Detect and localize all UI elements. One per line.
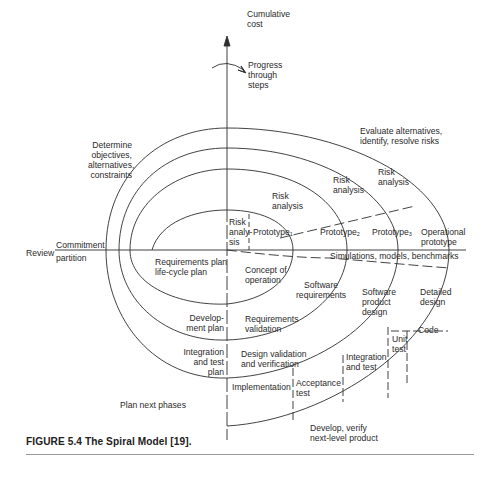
development-plan: Develop- ment plan — [176, 313, 224, 333]
review-label: Review — [26, 248, 54, 258]
operational-prototype: Operational prototype — [421, 227, 465, 247]
determine-objectives-label: Determine objectives, alternatives, cons… — [88, 140, 132, 180]
software-product-design: Software product design — [362, 287, 396, 317]
rotation-arrow-icon — [212, 63, 244, 70]
caption-divider — [26, 454, 474, 455]
spiral-loop-2 — [130, 169, 347, 340]
partition-label: partition — [56, 253, 87, 263]
software-requirements: Software requirements — [296, 280, 346, 300]
develop-verify-label: Develop, verify next-level product — [310, 423, 378, 443]
requirements-validation: Requirements validation — [245, 314, 299, 334]
requirements-plan: Requirements plan life-cycle plan — [155, 257, 227, 277]
prototype-3: Prototype3 — [372, 227, 412, 237]
acceptance-test: Acceptance test — [296, 378, 341, 398]
prototype-2: Prototype2 — [320, 227, 360, 237]
risk-analysis-2: Risk analysis — [272, 191, 303, 211]
design-validation: Design validation and verification — [241, 349, 306, 369]
code-label: Code — [418, 325, 439, 335]
implementation-label: Implementation — [232, 382, 291, 392]
simulations-label: Simulations, models, benchmarks — [330, 251, 458, 261]
integration-test: Integration and test — [346, 352, 387, 372]
risk-analysis-1: Risk analy- sis — [229, 217, 252, 247]
progress-label: Progress through steps — [248, 60, 282, 90]
concept-of-operation: Concept of operation — [245, 265, 287, 285]
plan-next-phases-label: Plan next phases — [120, 400, 186, 410]
unit-test: Unit test — [392, 334, 407, 354]
risk-analysis-3: Risk analysis — [333, 175, 364, 195]
detailed-design: Detailed design — [420, 287, 452, 307]
integration-plan: Integration and test plan — [176, 347, 224, 377]
cumulative-cost-label: Cumulative cost — [247, 9, 290, 29]
axis-arrow-icon — [224, 36, 230, 46]
evaluate-alternatives-label: Evaluate alternatives, identify, resolve… — [360, 126, 442, 146]
risk-analysis-4: Risk analysis — [378, 167, 409, 187]
commitment-label: Commitment — [56, 240, 105, 250]
prototype-1: Prototype1 — [253, 227, 293, 237]
figure-caption: FIGURE 5.4 The Spiral Model [19]. — [26, 435, 192, 447]
